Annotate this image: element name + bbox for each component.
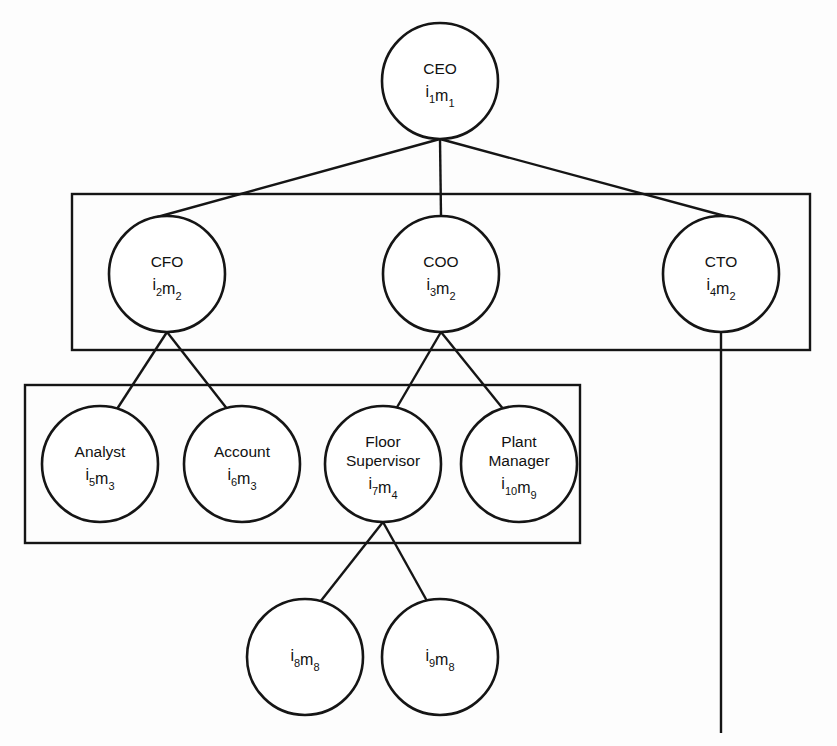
node-floor-supervisor-label-line2: Supervisor: [346, 452, 420, 469]
node-cfo-circle[interactable]: [109, 216, 225, 332]
node-plant-manager-label-line2: Manager: [488, 452, 549, 469]
node-ceo-label: CEO: [423, 60, 457, 77]
edge-coo-plant-manager: [441, 332, 504, 410]
nodes-layer: CEO i1m1 CFO i2m2 COO i3m2 CTO i4m2 Anal: [42, 23, 779, 715]
edge-floor-supervisor-worker-9: [383, 522, 427, 601]
node-plant-manager[interactable]: Plant Manager i10m9: [461, 406, 577, 522]
node-cto[interactable]: CTO i4m2: [663, 216, 779, 332]
node-analyst-label: Analyst: [75, 443, 127, 460]
node-floor-supervisor-label-line1: Floor: [365, 433, 400, 450]
node-analyst[interactable]: Analyst i5m3: [42, 406, 158, 522]
node-floor-supervisor[interactable]: Floor Supervisor i7m4: [325, 406, 441, 522]
node-coo-circle[interactable]: [383, 216, 499, 332]
node-account-circle[interactable]: [184, 406, 300, 522]
node-coo[interactable]: COO i3m2: [383, 216, 499, 332]
diagram-canvas: CEO i1m1 CFO i2m2 COO i3m2 CTO i4m2 Anal: [0, 0, 837, 746]
node-worker-8[interactable]: i8m8: [247, 599, 363, 715]
node-cfo-label: CFO: [151, 253, 184, 270]
org-hierarchy-diagram: CEO i1m1 CFO i2m2 COO i3m2 CTO i4m2 Anal: [0, 0, 837, 746]
edge-ceo-cfo: [150, 139, 440, 219]
edge-cfo-analyst: [117, 332, 167, 409]
node-coo-label: COO: [423, 253, 458, 270]
node-worker-9[interactable]: i9m8: [382, 599, 498, 715]
node-ceo-circle[interactable]: [382, 23, 498, 139]
edge-ceo-coo: [440, 139, 441, 216]
node-cfo[interactable]: CFO i2m2: [109, 216, 225, 332]
edge-floor-supervisor-worker-8: [320, 522, 383, 602]
edge-cfo-account: [167, 332, 228, 410]
node-cto-label: CTO: [705, 253, 737, 270]
node-cto-circle[interactable]: [663, 216, 779, 332]
node-account-label: Account: [214, 443, 271, 460]
node-ceo[interactable]: CEO i1m1: [382, 23, 498, 139]
edge-ceo-cto: [440, 139, 736, 219]
edge-coo-floor-supervisor: [396, 332, 441, 409]
node-account[interactable]: Account i6m3: [184, 406, 300, 522]
node-analyst-circle[interactable]: [42, 406, 158, 522]
node-plant-manager-label-line1: Plant: [501, 433, 537, 450]
